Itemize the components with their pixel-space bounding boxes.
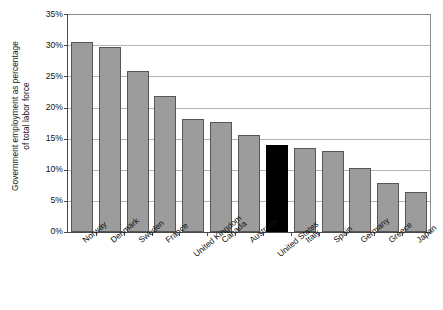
y-axis-title-area: Government employment as percentage of t… bbox=[0, 0, 34, 240]
bar-norway bbox=[71, 42, 93, 232]
y-tickmark-15 bbox=[64, 139, 68, 140]
bar-france bbox=[154, 96, 176, 232]
y-tickmark-25 bbox=[64, 76, 68, 77]
y-tick-label-5: 5% bbox=[37, 196, 63, 205]
bar-united-kingdom bbox=[182, 119, 204, 232]
y-tick-label-25: 25% bbox=[37, 72, 63, 81]
bar-sweden bbox=[127, 71, 149, 232]
y-tick-label-20: 20% bbox=[37, 103, 63, 112]
bar-spain bbox=[322, 151, 344, 232]
bar-germany bbox=[349, 168, 371, 232]
gridline-30 bbox=[68, 45, 430, 46]
x-axis-category-labels: NorwayDenmarkSwedenFranceUnited KingdomC… bbox=[67, 236, 443, 310]
bar-canada bbox=[210, 122, 232, 232]
bar-denmark bbox=[99, 47, 121, 232]
y-tick-label-0: 0% bbox=[37, 227, 63, 236]
y-tick-label-30: 30% bbox=[37, 41, 63, 50]
y-tickmark-10 bbox=[64, 170, 68, 171]
y-tick-label-15: 15% bbox=[37, 134, 63, 143]
y-tickmark-20 bbox=[64, 108, 68, 109]
gridline-20 bbox=[68, 108, 430, 109]
gridline-25 bbox=[68, 76, 430, 77]
y-tickmark-35 bbox=[64, 14, 68, 15]
y-tick-label-35: 35% bbox=[37, 10, 63, 19]
y-tickmark-5 bbox=[64, 201, 68, 202]
bar-chart: Government employment as percentage of t… bbox=[0, 0, 443, 310]
y-axis-tick-labels: 35% 30% 25% 20% 15% 10% 5% 0% bbox=[32, 0, 63, 240]
plot-area bbox=[67, 14, 431, 233]
y-tickmark-30 bbox=[64, 45, 68, 46]
y-tick-label-10: 10% bbox=[37, 165, 63, 174]
y-axis-title: Government employment as percentage of t… bbox=[10, 10, 31, 222]
y-tickmark-0 bbox=[64, 232, 68, 233]
